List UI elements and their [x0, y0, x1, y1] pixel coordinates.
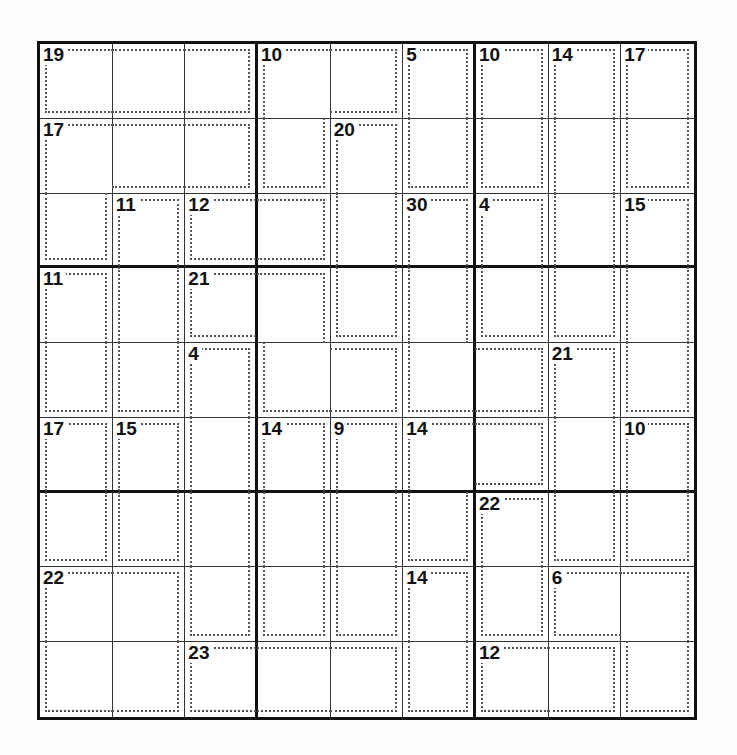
sudoku-cell[interactable]	[40, 343, 113, 418]
sudoku-cell[interactable]	[113, 567, 186, 642]
sudoku-cell[interactable]: 14	[403, 567, 476, 642]
sudoku-cell[interactable]	[185, 493, 258, 568]
sudoku-cell[interactable]	[40, 194, 113, 269]
sudoku-cell[interactable]	[549, 194, 622, 269]
sudoku-cell[interactable]	[331, 343, 404, 418]
sudoku-cell[interactable]: 17	[621, 44, 694, 119]
sudoku-cell[interactable]: 10	[258, 44, 331, 119]
sudoku-cell[interactable]: 10	[621, 418, 694, 493]
sudoku-cell[interactable]: 14	[403, 418, 476, 493]
sudoku-cell[interactable]	[621, 642, 694, 717]
sudoku-cell[interactable]: 11	[113, 194, 186, 269]
sudoku-cell[interactable]: 12	[476, 642, 549, 717]
sudoku-cell[interactable]: 22	[476, 493, 549, 568]
sudoku-cell[interactable]	[403, 119, 476, 194]
sudoku-cell[interactable]: 15	[113, 418, 186, 493]
cage-sum-clue: 22	[43, 568, 67, 588]
sudoku-cell[interactable]	[403, 493, 476, 568]
cage-outline	[263, 342, 331, 412]
sudoku-cell[interactable]	[258, 119, 331, 194]
sudoku-cell[interactable]	[403, 343, 476, 418]
sudoku-cell[interactable]	[113, 642, 186, 717]
sudoku-cell[interactable]	[476, 567, 549, 642]
sudoku-cell[interactable]	[185, 44, 258, 119]
sudoku-cell[interactable]	[549, 418, 622, 493]
sudoku-cell[interactable]	[621, 567, 694, 642]
sudoku-cell[interactable]: 11	[40, 268, 113, 343]
cage-outline	[190, 417, 250, 491]
cage-outline	[475, 348, 543, 412]
sudoku-cell[interactable]	[621, 268, 694, 343]
sudoku-cell[interactable]: 12	[185, 194, 258, 269]
sudoku-cell[interactable]: 4	[185, 343, 258, 418]
sudoku-cell[interactable]	[476, 343, 549, 418]
sudoku-cell[interactable]: 14	[258, 418, 331, 493]
sudoku-cell[interactable]	[476, 418, 549, 493]
sudoku-cell[interactable]	[476, 119, 549, 194]
sudoku-cell[interactable]: 30	[403, 194, 476, 269]
sudoku-cell[interactable]	[331, 268, 404, 343]
cage-outline	[330, 647, 398, 712]
cage-sum-clue: 17	[624, 45, 648, 65]
sudoku-cell[interactable]	[258, 642, 331, 717]
cage-outline	[45, 342, 107, 412]
sudoku-cell[interactable]: 6	[549, 567, 622, 642]
cage-outline	[408, 492, 468, 562]
sudoku-cell[interactable]	[185, 567, 258, 642]
sudoku-cell[interactable]	[258, 493, 331, 568]
sudoku-cell[interactable]	[331, 493, 404, 568]
sudoku-cell[interactable]	[621, 343, 694, 418]
sudoku-cell[interactable]	[258, 343, 331, 418]
sudoku-cell[interactable]	[331, 642, 404, 717]
sudoku-cell[interactable]	[331, 567, 404, 642]
cage-sum-clue: 10	[261, 45, 285, 65]
sudoku-cell[interactable]: 5	[403, 44, 476, 119]
sudoku-cell[interactable]	[621, 493, 694, 568]
sudoku-cell[interactable]: 9	[331, 418, 404, 493]
sudoku-cell[interactable]	[476, 268, 549, 343]
cage-outline	[330, 49, 398, 113]
sudoku-cell[interactable]: 20	[331, 119, 404, 194]
sudoku-cell[interactable]: 14	[549, 44, 622, 119]
sudoku-cell[interactable]: 19	[40, 44, 113, 119]
sudoku-cell[interactable]: 22	[40, 567, 113, 642]
sudoku-cell[interactable]	[258, 567, 331, 642]
sudoku-cell[interactable]	[549, 493, 622, 568]
sudoku-cell[interactable]	[549, 119, 622, 194]
sudoku-cell[interactable]: 17	[40, 119, 113, 194]
cage-outline	[184, 49, 250, 113]
sudoku-cell[interactable]	[331, 194, 404, 269]
sudoku-cell[interactable]	[549, 268, 622, 343]
cage-outline	[408, 641, 468, 712]
cage-sum-clue: 12	[479, 643, 503, 663]
sudoku-cell[interactable]: 10	[476, 44, 549, 119]
sudoku-cell[interactable]	[331, 44, 404, 119]
sudoku-cell[interactable]	[113, 493, 186, 568]
sudoku-cell[interactable]	[40, 493, 113, 568]
sudoku-cell[interactable]	[40, 642, 113, 717]
sudoku-cell[interactable]	[113, 44, 186, 119]
sudoku-cell[interactable]: 4	[476, 194, 549, 269]
sudoku-cell[interactable]	[113, 343, 186, 418]
cage-sum-clue: 6	[552, 568, 566, 588]
sudoku-cell[interactable]: 17	[40, 418, 113, 493]
sudoku-cell[interactable]	[113, 119, 186, 194]
sudoku-cell[interactable]: 21	[185, 268, 258, 343]
sudoku-cell[interactable]: 21	[549, 343, 622, 418]
sudoku-cell[interactable]	[549, 642, 622, 717]
sudoku-cell[interactable]	[403, 268, 476, 343]
sudoku-cell[interactable]: 15	[621, 194, 694, 269]
sudoku-cell[interactable]	[258, 194, 331, 269]
cage-outline	[475, 423, 543, 485]
sudoku-cell[interactable]	[621, 119, 694, 194]
sudoku-cell[interactable]	[185, 119, 258, 194]
cage-outline	[554, 417, 616, 491]
sudoku-cell[interactable]: 23	[185, 642, 258, 717]
cage-sum-clue: 14	[552, 45, 576, 65]
sudoku-cell[interactable]	[113, 268, 186, 343]
sudoku-cell[interactable]	[403, 642, 476, 717]
cage-outline	[554, 193, 616, 267]
sudoku-cell[interactable]	[258, 268, 331, 343]
cage-outline	[408, 267, 468, 343]
sudoku-cell[interactable]	[185, 418, 258, 493]
